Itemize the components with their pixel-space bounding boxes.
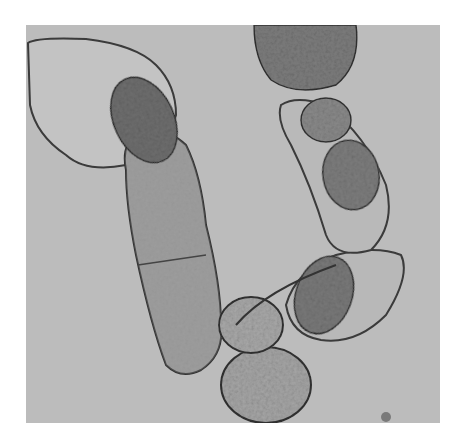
cell-chain-illustration xyxy=(26,25,440,423)
top-right-cell xyxy=(254,25,357,90)
bottom-cell-1 xyxy=(221,347,311,423)
micrograph-field xyxy=(26,25,440,423)
protoplast-right-small xyxy=(301,98,351,142)
debris-speck xyxy=(381,412,391,422)
bottom-cell-2 xyxy=(219,297,283,353)
